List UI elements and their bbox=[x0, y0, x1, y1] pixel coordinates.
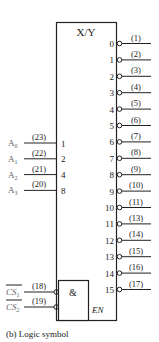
output-pin-number: (13) bbox=[129, 213, 143, 223]
output-index: 15 bbox=[105, 285, 115, 295]
address-label: A0 bbox=[8, 138, 18, 149]
inversion-bubble-icon bbox=[117, 107, 122, 112]
inversion-bubble-icon bbox=[117, 205, 122, 210]
output-index: 9 bbox=[110, 187, 115, 197]
address-label: A2 bbox=[8, 170, 18, 181]
inversion-bubble-icon bbox=[117, 58, 122, 63]
inversion-bubble-icon bbox=[117, 123, 122, 128]
output-index: 12 bbox=[105, 236, 114, 246]
output-index: 3 bbox=[110, 88, 115, 98]
output-index: 2 bbox=[110, 72, 115, 82]
address-pin-number: (20) bbox=[32, 179, 46, 189]
address-pin-number: (21) bbox=[32, 164, 46, 174]
output-index: 11 bbox=[105, 219, 114, 229]
output-pin-number: (9) bbox=[131, 164, 141, 174]
address-weight: 8 bbox=[61, 186, 66, 196]
output-pin-number: (4) bbox=[131, 82, 141, 92]
output-pin-number: (17) bbox=[129, 279, 143, 289]
output-pin-number: (5) bbox=[131, 98, 141, 108]
inversion-bubble-icon bbox=[117, 287, 122, 292]
chip-select-label: CS1 bbox=[6, 287, 20, 298]
inversion-bubble-icon bbox=[117, 156, 122, 161]
output-pin-number: (3) bbox=[131, 65, 141, 75]
inversion-bubble-icon bbox=[117, 254, 122, 259]
and-gate-label: & bbox=[69, 287, 77, 298]
output-pin-number: (10) bbox=[129, 180, 143, 190]
output-index: 10 bbox=[105, 203, 115, 213]
inversion-bubble-icon bbox=[117, 271, 122, 276]
inversion-bubble-icon bbox=[117, 172, 122, 177]
enable-input-pins: CS1(18)CS2(19) bbox=[6, 281, 59, 313]
address-weight: 1 bbox=[61, 139, 66, 149]
output-pin-number: (6) bbox=[131, 115, 141, 125]
logic-symbol-diagram: X/Y & EN 0(1)1(2)2(3)3(4)4(5)5(6)6(7)7(8… bbox=[0, 0, 159, 342]
output-pin-number: (16) bbox=[129, 262, 143, 272]
output-pin-number: (15) bbox=[129, 246, 143, 256]
enable-input: CS2(19) bbox=[6, 296, 59, 313]
output-pin-number: (1) bbox=[131, 33, 141, 43]
output-pin-number: (7) bbox=[131, 131, 141, 141]
address-weight: 4 bbox=[61, 170, 66, 180]
inversion-bubble-icon bbox=[117, 90, 122, 95]
address-pin-number: (22) bbox=[32, 148, 46, 158]
address-label: A1 bbox=[8, 154, 18, 165]
address-pin-number: (23) bbox=[32, 132, 46, 142]
output-pin-number: (14) bbox=[129, 229, 143, 239]
enable-pin-number: (18) bbox=[32, 281, 46, 291]
inversion-bubble-icon bbox=[117, 74, 122, 79]
inversion-bubble-icon bbox=[117, 189, 122, 194]
address-weight: 2 bbox=[61, 154, 66, 164]
output-pin-number: (2) bbox=[131, 49, 141, 59]
inversion-bubble-icon bbox=[117, 222, 122, 227]
output-pin-number: (11) bbox=[129, 197, 143, 207]
figure-caption: (b) Logic symbol bbox=[6, 329, 69, 339]
output-index: 7 bbox=[110, 154, 115, 164]
output-index: 0 bbox=[110, 39, 115, 49]
output-index: 14 bbox=[105, 269, 115, 279]
output-index: 6 bbox=[110, 137, 115, 147]
output-index: 8 bbox=[110, 170, 115, 180]
inversion-bubble-icon bbox=[117, 140, 122, 145]
output-pin-number: (8) bbox=[131, 147, 141, 157]
inversion-bubble-icon bbox=[117, 41, 122, 46]
output-index: 13 bbox=[105, 252, 115, 262]
block-title: X/Y bbox=[77, 26, 96, 38]
output-index: 1 bbox=[110, 55, 115, 65]
output-index: 5 bbox=[110, 121, 115, 131]
output-pins: 0(1)1(2)2(3)3(4)4(5)5(6)6(7)7(8)8(9)9(10… bbox=[105, 33, 151, 296]
chip-select-label: CS2 bbox=[6, 302, 20, 313]
enable-pin-number: (19) bbox=[32, 296, 46, 306]
enable-label: EN bbox=[91, 305, 104, 315]
output-index: 4 bbox=[110, 105, 115, 115]
address-label: A3 bbox=[8, 185, 18, 196]
inversion-bubble-icon bbox=[117, 238, 122, 243]
